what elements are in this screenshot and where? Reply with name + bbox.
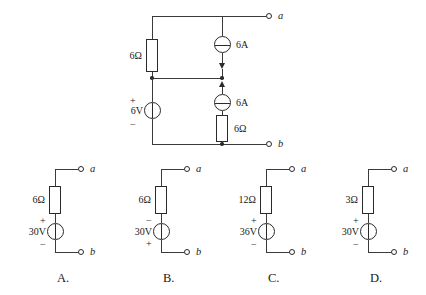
option-d-resistor <box>362 186 374 214</box>
junction-bottom-right <box>220 142 224 146</box>
option-d-voltage-source-bar <box>368 224 369 239</box>
terminal-node-a <box>266 13 272 19</box>
option-c-voltage-source-bar <box>266 224 267 239</box>
option-a-wire-upper <box>55 169 56 186</box>
option-b-wire-bottom <box>161 252 184 253</box>
wire-left-upper <box>152 16 153 39</box>
option-d-plus-sign: + <box>353 216 359 226</box>
option-b-voltage-source-bar <box>161 224 162 239</box>
current-source-bottom-label: 6A <box>236 98 248 108</box>
option-b-wire-upper <box>161 169 162 186</box>
option-c-source-label: 36V <box>217 227 257 237</box>
current-source-top-label: 6A <box>236 40 248 50</box>
option-a-plus-sign: + <box>40 216 46 226</box>
option-c-wire-bottom <box>266 252 289 253</box>
current-source-bottom-bar <box>215 103 230 104</box>
option-a-terminal-label-b: b <box>90 247 95 258</box>
option-b-wire-top <box>161 169 184 170</box>
wire-left-to-vsource <box>152 78 153 102</box>
option-c-wire-upper <box>266 169 267 186</box>
wire-mid-top-stub <box>222 16 223 36</box>
option-d-source-label: 30V <box>319 227 359 237</box>
wire-bottom <box>152 144 266 145</box>
terminal-node-b <box>266 141 272 147</box>
terminal-label-a: a <box>278 11 283 22</box>
option-d-wire-lower <box>368 240 369 252</box>
option-b-letter: B. <box>163 272 174 285</box>
option-c-terminal-label-a: a <box>301 164 306 175</box>
voltage-source-label: 6V <box>110 106 143 116</box>
option-a-wire-bottom <box>55 252 78 253</box>
option-a-source-label: 30V <box>6 227 46 237</box>
option-b-resistor <box>155 186 167 214</box>
option-c-plus-sign: + <box>251 216 257 226</box>
option-a-terminal-node-b <box>78 249 84 255</box>
option-a-letter: A. <box>57 272 69 285</box>
option-b-minus-sign: − <box>146 216 152 226</box>
option-c-minus-sign: − <box>251 240 257 250</box>
junction-mid-right <box>220 76 224 80</box>
option-b-wire-lower <box>161 240 162 252</box>
option-d-wire-top <box>368 169 391 170</box>
option-b-source-label: 30V <box>112 227 152 237</box>
wire-vsource-to-bottom <box>152 119 153 144</box>
circuit-problem-figure: ▫ ▫ ▫ ▫ ▫ ▫ 6Ω 6A + 6V − <box>0 0 426 295</box>
wire-middle <box>152 78 222 79</box>
option-c-letter: C. <box>268 272 279 285</box>
voltage-source-bar <box>152 103 153 118</box>
option-c-wire-lower <box>266 240 267 252</box>
option-c-terminal-node-b <box>289 249 295 255</box>
option-c-wire-top <box>266 169 289 170</box>
option-a-minus-sign: − <box>40 240 46 250</box>
option-a-resistor-label: 6Ω <box>15 195 45 205</box>
option-d-minus-sign: − <box>353 240 359 250</box>
option-b-plus-sign: + <box>146 239 152 249</box>
option-d-wire-upper <box>368 169 369 186</box>
option-b-terminal-label-b: b <box>196 247 201 258</box>
option-c-terminal-node-a <box>289 166 295 172</box>
resistor-right-label: 6Ω <box>234 124 246 134</box>
option-a-resistor <box>49 186 61 214</box>
clipped-header-text: ▫ ▫ ▫ ▫ ▫ ▫ <box>4 0 41 3</box>
option-d-terminal-label-a: a <box>403 164 408 175</box>
option-a-wire-mid <box>55 214 56 223</box>
option-b-wire-mid <box>161 214 162 223</box>
option-d-wire-bottom <box>368 252 391 253</box>
option-c-wire-mid <box>266 214 267 223</box>
option-d-wire-mid <box>368 214 369 223</box>
option-c-resistor <box>260 186 272 214</box>
terminal-label-b: b <box>278 139 283 150</box>
option-a-wire-lower <box>55 240 56 252</box>
option-b-terminal-node-a <box>184 166 190 172</box>
option-a-wire-top <box>55 169 78 170</box>
option-d-terminal-node-a <box>391 166 397 172</box>
option-a-terminal-label-a: a <box>90 164 95 175</box>
resistor-left-6ohm <box>146 39 158 72</box>
option-d-letter: D. <box>370 272 382 285</box>
current-source-top-bar <box>215 45 230 46</box>
option-d-resistor-label: 3Ω <box>328 195 358 205</box>
option-a-terminal-node-a <box>78 166 84 172</box>
option-c-resistor-label: 12Ω <box>220 195 256 205</box>
resistor-left-label: 6Ω <box>112 51 142 61</box>
option-b-terminal-label-a: a <box>196 164 201 175</box>
option-b-resistor-label: 6Ω <box>121 195 151 205</box>
voltage-source-minus-sign: − <box>130 120 136 130</box>
option-d-terminal-label-b: b <box>403 247 408 258</box>
option-a-voltage-source-bar <box>55 224 56 239</box>
option-b-terminal-node-b <box>184 249 190 255</box>
wire-top <box>152 16 266 17</box>
wire-mid-arrow-to-source <box>222 87 223 94</box>
resistor-right-6ohm <box>216 115 228 142</box>
option-c-terminal-label-b: b <box>301 247 306 258</box>
option-d-terminal-node-b <box>391 249 397 255</box>
